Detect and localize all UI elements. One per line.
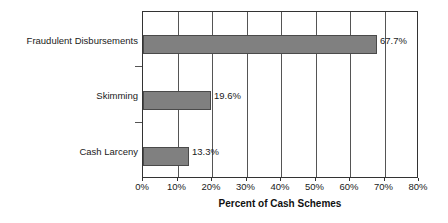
bar-skimming: [143, 91, 211, 110]
bar-fraudulent-disbursements: [143, 35, 377, 54]
category-label-fraudulent-disbursements: Fraudulent Disbursements: [0, 35, 138, 47]
value-label-fraudulent-disbursements: 67.7%: [380, 35, 407, 47]
x-axis-title: Percent of Cash Schemes: [142, 198, 418, 209]
bar-cash-larceny: [143, 147, 189, 166]
category-label-skimming: Skimming: [0, 90, 138, 102]
value-label-skimming: 19.6%: [214, 90, 241, 102]
x-axis-label-80: 80%: [398, 181, 438, 193]
category-label-cash-larceny: Cash Larceny: [0, 146, 138, 158]
bar-chart: Fraudulent Disbursements Skimming Cash L…: [0, 0, 448, 223]
value-label-cash-larceny: 13.3%: [192, 146, 219, 158]
plot-area: [142, 11, 418, 178]
